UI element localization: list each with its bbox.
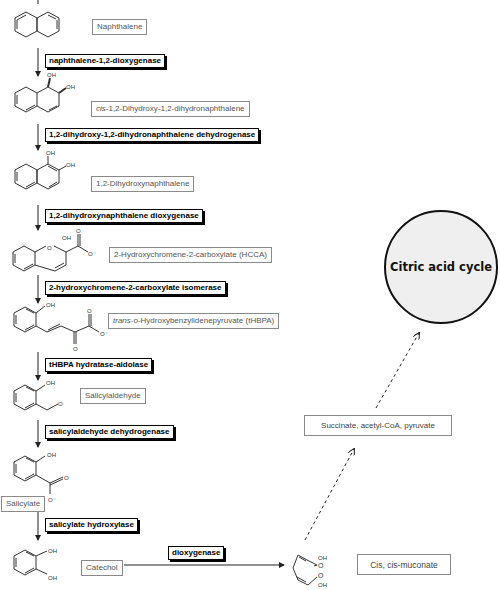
enzyme-label-naphthalene-dioxygenase: naphthalene-1,2-dioxygenase bbox=[45, 54, 165, 68]
salicylate-structure bbox=[14, 456, 63, 494]
enzyme-label-salicylaldehyde-dehydrogenase: salicylaldehyde dehydrogenase bbox=[45, 425, 174, 439]
oh-label: OH bbox=[47, 452, 56, 458]
dashed-arrow-to-products bbox=[305, 449, 354, 540]
muconate-structure bbox=[293, 555, 317, 585]
dashed-arrow-to-cycle bbox=[376, 333, 419, 408]
oh-label: OH bbox=[47, 72, 56, 78]
enzyme-label-hcca-isomerase: 2-hydroxychromene-2-carboxylate isomeras… bbox=[45, 281, 226, 295]
oh-label: OH bbox=[318, 582, 327, 588]
compound-label-catechol: Catechol bbox=[81, 560, 123, 576]
compound-label-hcca: 2-Hydroxychromene-2-carboxylate (HCCA) bbox=[109, 247, 272, 263]
compound-label-salicylaldehyde: Salicylaldehyde bbox=[80, 388, 146, 404]
oh-label: OH bbox=[46, 380, 55, 386]
carbonyl-o-label: O bbox=[318, 572, 324, 579]
enzyme-label-dihydroxynaphthalene-dioxygenase: 1,2-dihydroxynaphthalene dioxygenase bbox=[45, 209, 203, 223]
compound-name: -Hydroxybenzylidenepyruvate (tHBPA) bbox=[138, 316, 274, 325]
carbonyl-o-label: O bbox=[76, 228, 81, 234]
keto-o-label: O bbox=[73, 346, 78, 352]
compound-label-cis-dihydrodiol: cis-1,2-Dihydroxy-1,2-dihydronaphthalene bbox=[91, 101, 250, 117]
enzyme-label-dihydrodiol-dehydrogenase: 1,2-dihydroxy-1,2-dihydronaphthalene deh… bbox=[45, 128, 259, 142]
dihydroxynaphthalene-structure bbox=[15, 156, 66, 189]
carboxylate-o-label: O⁻ bbox=[48, 497, 56, 503]
cis-dihydrodiol-structure bbox=[15, 78, 66, 112]
enzyme-label-thbpa-hydratase-aldolase: tHBPA hydratase-aldolase bbox=[45, 358, 152, 372]
compound-name: -1,2-Dihydroxy-1,2-dihydronaphthalene bbox=[106, 104, 245, 113]
salicylaldehyde-structure bbox=[14, 385, 58, 410]
compound-label-muconate: Cis, cis-muconate bbox=[357, 554, 451, 575]
compound-label-dihydroxynaphthalene: 1,2-Dihydroxynaphthalene bbox=[91, 176, 194, 192]
oh-label: OH bbox=[66, 84, 75, 90]
citric-acid-cycle-node: Citric acid cycle bbox=[384, 210, 498, 324]
carbonyl-o-label: O bbox=[64, 475, 69, 481]
oh-label: OH bbox=[48, 548, 57, 554]
oh-label: OH bbox=[66, 162, 75, 168]
naphthalene-structure bbox=[15, 12, 59, 37]
oh-label: OH bbox=[46, 150, 55, 156]
catechol-structure bbox=[14, 550, 47, 575]
stereo-prefix: trans-o bbox=[113, 316, 138, 325]
stereo-prefix: cis bbox=[96, 104, 106, 113]
enzyme-label-salicylate-hydroxylase: salicylate hydroxylase bbox=[45, 518, 138, 532]
carboxylate-o-label: O⁻ bbox=[100, 331, 108, 337]
compound-label-salicylate: Salicylate bbox=[1, 496, 45, 512]
enzyme-label-dioxygenase: dioxygenase bbox=[168, 546, 224, 560]
oh-label: OH bbox=[48, 575, 57, 581]
compound-label-naphthalene: Naphthalene bbox=[92, 19, 147, 35]
oh-label: OH bbox=[46, 302, 55, 308]
hcca-structure bbox=[13, 234, 88, 271]
oh-label: OH bbox=[318, 555, 327, 561]
compound-label-thbpa: trans-o-Hydroxybenzylidenepyruvate (tHBP… bbox=[108, 313, 279, 329]
oh-label: OH bbox=[62, 235, 71, 241]
carboxylate-o-label: O⁻ bbox=[88, 251, 96, 257]
carbonyl-o-label: O bbox=[87, 308, 92, 314]
ring-o-label: O bbox=[47, 245, 52, 251]
aldehyde-o-label: O bbox=[58, 401, 63, 407]
carbonyl-o-label: O bbox=[318, 562, 324, 569]
products-label: Succinate, acetyl-CoA, pyruvate bbox=[304, 415, 452, 436]
